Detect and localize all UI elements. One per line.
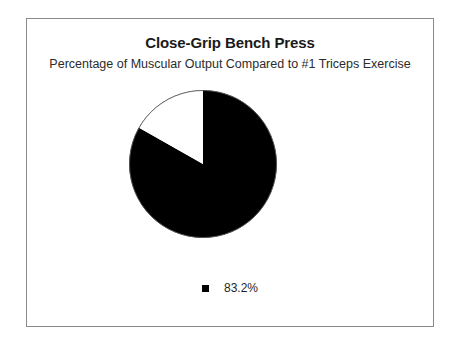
chart-title: Close-Grip Bench Press [27,34,433,52]
legend-item-label: 83.2% [224,282,258,294]
pie-chart [128,89,278,239]
title-block: Close-Grip Bench Press Percentage of Mus… [27,34,433,72]
legend-swatch-black [202,285,209,292]
chart-frame: Close-Grip Bench Press Percentage of Mus… [26,18,434,327]
legend-item[interactable]: 83.2% [202,282,258,294]
pie-chart-svg [128,89,278,239]
legend: 83.2% [27,282,433,294]
chart-subtitle: Percentage of Muscular Output Compared t… [27,56,433,72]
